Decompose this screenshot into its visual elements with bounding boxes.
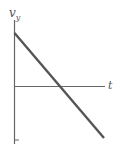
velocity-time-graph: vy t bbox=[0, 0, 116, 151]
t-axis-label: t bbox=[108, 79, 113, 92]
velocity-line bbox=[15, 33, 105, 138]
vy-axis-label: vy bbox=[9, 6, 21, 22]
